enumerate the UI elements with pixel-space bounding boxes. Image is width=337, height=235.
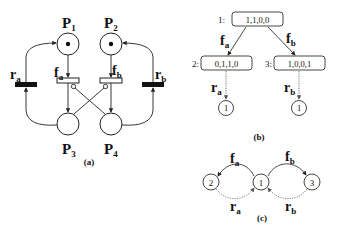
- node-marking-3: 1,0,0,1: [288, 59, 311, 69]
- place-label-p2: P2: [104, 15, 118, 33]
- node-marking-1: 1,1,0,0: [246, 15, 269, 25]
- place-label-p1: P1: [62, 15, 76, 33]
- panel-b-reachability-tree: 1: 1,1,0,0 2: 0,1,1,0 3: 1,0,0,1 fa fb r…: [192, 12, 325, 142]
- figure-canvas: P1 P2 P3 P4 fa fb ra rb: [0, 0, 337, 235]
- transition-label-fa: fa: [54, 65, 64, 82]
- state-label-2: 2: [209, 178, 214, 188]
- place-p4: [100, 113, 122, 135]
- state-label-3: 3: [310, 178, 315, 188]
- tree-edge-label-rb: rb: [284, 80, 295, 97]
- node-marking-2: 0,1,1,0: [215, 59, 238, 69]
- caption-a: (a): [84, 157, 95, 167]
- inhibitor-head-fa: [71, 84, 75, 88]
- tree-leaf-label-1b: 1: [297, 103, 301, 113]
- transition-label-ra: ra: [10, 67, 21, 84]
- panel-c-state-graph: 2 1 3 fa fb ra rb (c): [203, 149, 320, 223]
- inhibitor-arc-p4-fa: [75, 88, 105, 114]
- state-edge-fb: [268, 164, 306, 176]
- token-p2: [109, 42, 113, 46]
- panel-a-petri-net: P1 P2 P3 P4 fa fb ra rb: [10, 15, 166, 167]
- state-edge-ra: [216, 188, 254, 199]
- node-index-2: 2:: [192, 59, 199, 69]
- place-label-p3: P3: [62, 141, 76, 159]
- node-index-3: 3:: [265, 59, 272, 69]
- place-p3: [57, 113, 79, 135]
- state-edge-label-fb: fb: [285, 149, 295, 166]
- caption-b: (b): [254, 132, 265, 142]
- tree-edge-fa: [228, 27, 246, 55]
- inhibitor-arc-p3-fb: [74, 88, 104, 114]
- arc-ra-p1: [26, 43, 56, 82]
- state-edge-label-ra: ra: [230, 199, 241, 216]
- transition-label-rb: rb: [155, 67, 166, 84]
- tree-leaf-label-1a: 1: [224, 103, 228, 113]
- arc-p4-rb: [122, 88, 153, 125]
- tree-edge-label-fa: fa: [220, 33, 230, 50]
- node-index-1: 1:: [218, 15, 225, 25]
- caption-c: (c): [257, 213, 267, 223]
- arc-rb-p2: [123, 43, 153, 82]
- place-label-p4: P4: [104, 141, 118, 159]
- tree-edge-label-ra: ra: [211, 80, 222, 97]
- arc-p3-ra: [26, 88, 57, 125]
- state-edge-rb: [268, 188, 307, 199]
- tree-edge-label-fb: fb: [286, 31, 296, 48]
- state-edge-label-fa: fa: [230, 151, 240, 168]
- state-label-1: 1: [259, 178, 264, 188]
- inhibitor-head-fb: [103, 84, 107, 88]
- transition-label-fb: fb: [112, 63, 122, 80]
- token-p1: [66, 42, 70, 46]
- state-edge-label-rb: rb: [285, 199, 296, 216]
